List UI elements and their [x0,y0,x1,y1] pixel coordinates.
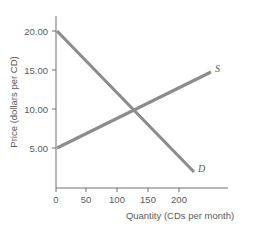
x-tick-label-50: 50 [81,194,92,205]
y-tick-label-10: 10.00 [24,104,48,115]
x-axis-title: Quantity (CDs per month) [126,210,234,221]
demand-curve-label: D [197,163,206,174]
supply-curve [57,72,211,148]
y-axis-title: Price (dollars per CD) [8,56,19,147]
x-tick-label-150: 150 [140,194,156,205]
y-tick-label-15: 15.00 [24,65,48,76]
demand-curve [57,31,194,172]
x-tick-label-200: 200 [171,194,187,205]
supply-curve-label: S [215,63,220,74]
chart-canvas: 20.00 15.00 10.00 5.00 0 50 100 150 200 … [0,0,255,229]
y-tick-label-5: 5.00 [30,143,49,154]
y-tick-label-20: 20.00 [24,26,48,37]
supply-demand-chart: 20.00 15.00 10.00 5.00 0 50 100 150 200 … [0,0,255,229]
x-tick-label-0: 0 [53,194,58,205]
x-tick-label-100: 100 [109,194,125,205]
